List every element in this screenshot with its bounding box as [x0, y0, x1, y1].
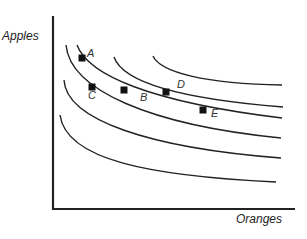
data-points	[79, 55, 207, 114]
point-marker-b	[121, 87, 128, 94]
indifference-curve-chart	[0, 0, 307, 239]
point-marker-e	[200, 107, 207, 114]
curve-6	[60, 115, 276, 182]
x-axis-label: Oranges	[236, 212, 282, 226]
indifference-curves	[60, 45, 283, 182]
curve-1	[153, 56, 282, 85]
point-marker-d	[163, 89, 170, 96]
point-label-d: D	[177, 78, 185, 90]
point-label-c: C	[88, 89, 96, 101]
point-label-b: B	[140, 91, 147, 103]
point-marker-a	[79, 55, 86, 62]
point-label-e: E	[211, 107, 218, 119]
y-axis-label: Apples	[2, 29, 39, 43]
point-label-a: A	[87, 47, 94, 59]
